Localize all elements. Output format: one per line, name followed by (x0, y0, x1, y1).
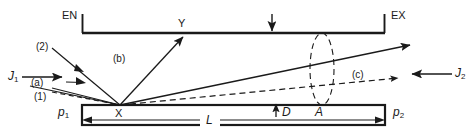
label-point-y: Y (178, 18, 185, 29)
flux-j1-subscript: 1 (14, 75, 18, 84)
ray-1-trajectory (52, 77, 120, 105)
label-flux-j1: J1 (8, 70, 18, 84)
label-pressure-p2: p2 (393, 106, 404, 120)
label-entrance: EN (62, 10, 77, 21)
label-ray-2: (2) (36, 42, 48, 52)
figure-canvas: EN EX (2) (a) (1) (b) (c) J1 J2 p1 p2 X … (0, 0, 474, 139)
pressure-p1-subscript: 1 (65, 111, 69, 120)
label-length-l: L (206, 114, 213, 126)
pressure-p2-subscript: 2 (400, 111, 404, 120)
label-ray-a: (a) (31, 78, 43, 88)
ray-b-trajectory (120, 37, 183, 105)
pressure-p1-symbol: p (58, 105, 65, 119)
top-plate (82, 14, 385, 33)
label-pressure-p1: p1 (58, 106, 69, 120)
flux-j2-subscript: 2 (461, 72, 465, 81)
aperture-ellipse (310, 33, 334, 105)
pressure-p2-symbol: p (393, 105, 400, 119)
bottom-plate (82, 105, 385, 125)
label-area-a: A (315, 106, 323, 118)
label-gap-d: D (282, 106, 291, 118)
label-flux-j2: J2 (455, 67, 465, 81)
label-exit: EX (391, 10, 406, 21)
label-ray-c: (c) (352, 70, 364, 80)
label-point-x: X (115, 108, 122, 119)
label-ray-1: (1) (34, 92, 46, 102)
label-ray-b: (b) (113, 54, 125, 64)
